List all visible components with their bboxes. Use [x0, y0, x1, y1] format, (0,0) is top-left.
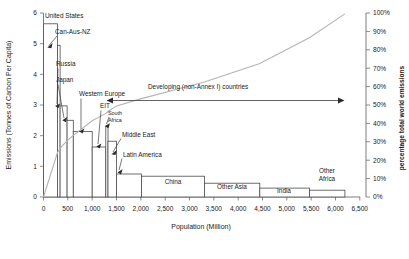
label-south: South [108, 110, 122, 116]
label-japan: Japan [56, 76, 74, 84]
y-tick-3: 3 [33, 101, 37, 108]
annotation-latin-america: Latin America [118, 151, 163, 175]
right-axis-ticks [366, 13, 370, 197]
x-tick-4: 2,000 [133, 205, 150, 212]
label-developing-countries: Developing (non-Annex I) countries [148, 83, 248, 91]
emissions-population-chart: 0 1 2 3 4 5 6 Emissions (Tonnes of Carbo… [0, 0, 409, 259]
label-other-asia: Other Asia [217, 183, 247, 190]
y-tick-6: 6 [33, 9, 37, 16]
label-eit: EIT [100, 102, 110, 109]
left-axis: 0 1 2 3 4 5 6 [33, 9, 43, 200]
x-tick-12: 6,000 [327, 205, 344, 212]
y2-tick-40: 40% [373, 120, 386, 127]
y2-tick-100: 100% [373, 9, 390, 16]
bar-eit [92, 147, 106, 197]
annotation-united-states: United States [45, 12, 83, 19]
x-tick-2: 1,000 [84, 205, 101, 212]
bar-japan [67, 120, 73, 197]
developing-countries-annotation: Developing (non-Annex I) countries [107, 83, 345, 103]
chart-container: 0 1 2 3 4 5 6 Emissions (Tonnes of Carbo… [0, 0, 409, 259]
x-tick-13: 6,500 [352, 205, 369, 212]
label-western-europe: Western Europe [79, 90, 126, 98]
y2-tick-30: 30% [373, 138, 386, 145]
x-tick-8: 4,000 [230, 205, 247, 212]
x-tick-9: 4,500 [254, 205, 271, 212]
label-can-aus-nz: Can-Aus-NZ [55, 28, 91, 35]
y-tick-2: 2 [33, 132, 37, 139]
y2-tick-60: 60% [373, 83, 386, 90]
label-india: India [277, 187, 291, 194]
bars-group [44, 24, 345, 197]
bar-united-states [44, 24, 58, 197]
x-tick-11: 5,500 [303, 205, 320, 212]
x-tick-1: 500 [62, 205, 73, 212]
x-tick-6: 3,000 [181, 205, 198, 212]
label-united-states: United States [45, 12, 83, 19]
label-other-africa: Africa [319, 175, 336, 182]
bottom-axis: 0 500 1,000 1,500 2,000 2,500 3,000 3,50… [42, 197, 369, 212]
bar-western-europe [73, 131, 92, 197]
y2-tick-0: 0% [373, 193, 383, 200]
y2-tick-20: 20% [373, 157, 386, 164]
y2-tick-10: 10% [373, 175, 386, 182]
label-china: China [165, 178, 182, 185]
label-russia: Russia [56, 60, 76, 67]
y2-tick-80: 80% [373, 46, 386, 53]
label-africa: Africa [108, 117, 122, 123]
y-tick-4: 4 [33, 71, 37, 78]
annotation-south-africa: South Africa [105, 110, 122, 128]
bottom-axis-ticks [44, 197, 360, 201]
label-latin-america: Latin America [123, 151, 162, 158]
y-tick-0: 0 [33, 193, 37, 200]
label-other: Other [319, 167, 336, 174]
left-axis-ticks [40, 13, 44, 197]
x-tick-7: 3,500 [206, 205, 223, 212]
x-tick-10: 5,000 [279, 205, 296, 212]
x-tick-5: 2,500 [157, 205, 174, 212]
y-tick-1: 1 [33, 163, 37, 170]
bar-can-aus-nz [57, 45, 60, 197]
label-middle-east: Middle East [122, 131, 156, 138]
y-axis-title: Emissions (Tonnes of Carbon Per Capita) [5, 41, 13, 170]
right-axis: 0% 10% 20% 30% 40% 50% 60% 70% 80% 90% 1… [366, 9, 390, 200]
x-tick-3: 1,500 [108, 205, 125, 212]
bar-middle-east [108, 141, 117, 197]
y-tick-5: 5 [33, 40, 37, 47]
y2-tick-70: 70% [373, 65, 386, 72]
y2-tick-50: 50% [373, 101, 386, 108]
y2-tick-90: 90% [373, 28, 386, 35]
y2-axis-title: percentage total world emissions [398, 65, 406, 170]
x-tick-0: 0 [42, 205, 46, 212]
x-axis-title: Population (Million) [171, 223, 231, 231]
bar-other-africa [309, 190, 345, 197]
bar-latin-america [117, 174, 142, 197]
